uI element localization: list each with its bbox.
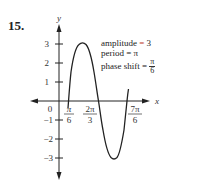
x-tick-2pi-over-3: 2π 3 <box>83 104 97 125</box>
x-axis-arrow-right-icon <box>142 99 150 104</box>
y-tick-label: 1 <box>45 77 50 87</box>
y-tick-label: −3 <box>43 153 53 163</box>
period-line: period = π <box>101 48 155 58</box>
x-axis-arrow-left-icon <box>30 99 38 104</box>
y-axis-label: y <box>56 13 61 23</box>
y-tick-label: −1 <box>43 115 53 125</box>
svg-text:6: 6 <box>133 115 138 125</box>
svg-text:7π: 7π <box>130 104 140 114</box>
svg-text:2π: 2π <box>85 104 95 114</box>
phase-shift-line: phase shift = π 6 <box>101 58 155 75</box>
y-tick-label: −2 <box>43 134 53 144</box>
svg-text:6: 6 <box>67 115 72 125</box>
phase-shift-fraction: π 6 <box>149 58 155 75</box>
origin-label: 0 <box>48 104 53 114</box>
y-axis-arrow-down-icon <box>57 172 62 180</box>
y-axis-arrow-up-icon <box>57 24 62 32</box>
annotation: amplitude = 3 period = π phase shift = π… <box>101 38 155 75</box>
x-tick-pi-over-6: π 6 <box>64 104 74 125</box>
svg-text:3: 3 <box>88 115 93 125</box>
y-tick-label: 3 <box>45 39 50 49</box>
x-tick-7pi-over-6: 7π 6 <box>128 104 142 125</box>
sine-graph: 3 2 1 −1 −2 −3 y x 0 π 6 2π 3 7π 6 <box>0 0 199 187</box>
x-axis-label: x <box>154 96 159 106</box>
amplitude-line: amplitude = 3 <box>101 38 155 48</box>
y-tick-label: 2 <box>45 58 50 68</box>
svg-text:π: π <box>67 104 72 114</box>
